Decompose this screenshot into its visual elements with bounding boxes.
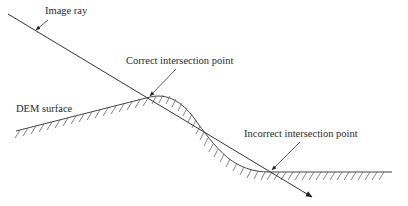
incorrect-intersection-label: Incorrect intersection point <box>244 129 358 140</box>
correct-point-pointer <box>150 69 176 96</box>
dem-surface-label: DEM surface <box>16 104 72 115</box>
image-ray-label: Image ray <box>45 6 87 17</box>
image-ray-pointer <box>36 20 48 30</box>
incorrect-point-pointer <box>272 142 300 170</box>
correct-intersection-label: Correct intersection point <box>126 56 233 67</box>
